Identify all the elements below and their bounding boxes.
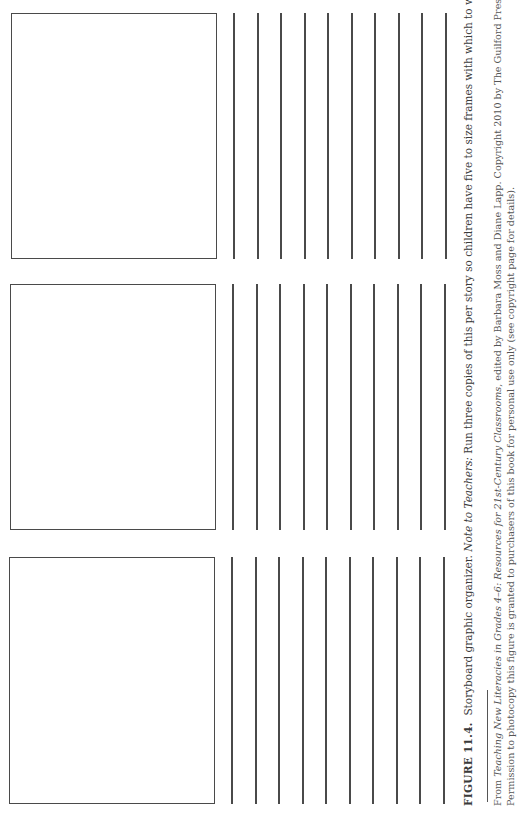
footnote-line-1: From Teaching New Literacies in Grades 4… [492, 0, 503, 806]
note-text: Run three copies of this per story so ch… [462, 0, 474, 454]
writing-line [326, 284, 328, 530]
storyboard-frame-2 [10, 284, 216, 530]
writing-line [419, 557, 421, 804]
footnote-line-2: Permission to photocopy this figure is g… [505, 187, 516, 806]
writing-line [303, 284, 305, 530]
writing-line [444, 284, 446, 530]
writing-line [397, 284, 399, 530]
writing-line [396, 557, 398, 804]
writing-line [257, 13, 259, 259]
storyboard-frame-1 [11, 13, 217, 259]
writing-line [350, 284, 352, 530]
writing-line [255, 557, 257, 804]
footnote-suffix: , edited by Barbara Moss and Diane Lapp.… [492, 0, 503, 387]
writing-line [351, 13, 353, 259]
storyboard-frame-3 [9, 557, 215, 804]
writing-line [349, 557, 351, 804]
writing-line [398, 13, 400, 259]
writing-line [256, 284, 258, 530]
note-label: Note to Teachers: [462, 457, 474, 552]
writing-line [232, 284, 234, 530]
writing-line [445, 13, 447, 259]
writing-line [421, 13, 423, 259]
writing-line [279, 284, 281, 530]
writing-line [373, 284, 375, 530]
writing-line [280, 13, 282, 259]
writing-line [231, 557, 233, 804]
writing-line [372, 557, 374, 804]
writing-line [374, 13, 376, 259]
writing-line [420, 284, 422, 530]
writing-line [443, 557, 445, 804]
writing-line [302, 557, 304, 804]
writing-line [325, 557, 327, 804]
writing-line [278, 557, 280, 804]
book-title: Teaching New Literacies in Grades 4–6: R… [492, 387, 503, 777]
writing-line [233, 13, 235, 259]
figure-title: Storyboard graphic organizer. [462, 555, 474, 716]
footnote-divider [487, 690, 488, 802]
figure-caption: FIGURE 11.4. Storyboard graphic organize… [462, 0, 474, 806]
footnote-prefix: From [492, 777, 503, 806]
footnote-permission: Permission to photocopy this figure is g… [505, 187, 516, 806]
writing-line [327, 13, 329, 259]
figure-label: FIGURE 11.4. [462, 722, 474, 806]
writing-line [304, 13, 306, 259]
